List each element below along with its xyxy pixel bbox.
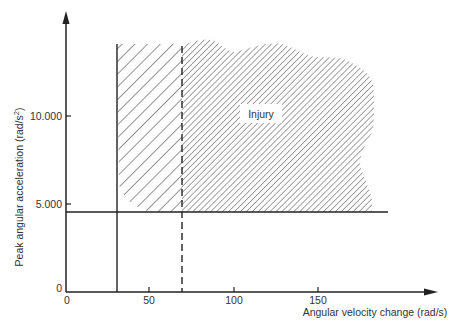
injury-label: Injury [240, 104, 282, 123]
y-axis-label: Peak angular acceleration (rad/s2) [12, 108, 25, 267]
y-tick-label-0: 0 [56, 282, 62, 294]
x-tick-label-0: 0 [64, 294, 70, 306]
x-axis-arrow-icon [424, 289, 438, 296]
x-tick-label-150: 150 [309, 294, 327, 306]
injury-region-dense [180, 35, 380, 215]
x-axis-label: Angular velocity change (rad/s) [303, 306, 448, 318]
y-tick-label-5000: 5.000 [36, 198, 62, 210]
chart: Injury 0 5.000 10.000 0 50 100 150 Angul… [0, 0, 452, 329]
y-axis-arrow-icon [63, 11, 70, 24]
x-axis [66, 287, 438, 296]
injury-region-sparse [110, 40, 190, 215]
x-tick-label-50: 50 [143, 294, 155, 306]
svg-text:Injury: Injury [248, 108, 274, 120]
x-tick-label-100: 100 [225, 294, 243, 306]
y-axis [63, 11, 72, 292]
y-tick-label-10000: 10.000 [30, 110, 62, 122]
